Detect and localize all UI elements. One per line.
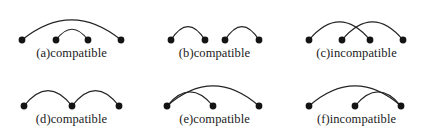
node-d-3 bbox=[116, 103, 123, 110]
panel-b: (b)compatible bbox=[143, 0, 286, 66]
panel-b-caption: (b)compatible bbox=[179, 47, 250, 60]
panel-f-diagram bbox=[285, 66, 427, 112]
node-c-3 bbox=[367, 37, 374, 44]
node-a-4 bbox=[118, 37, 125, 44]
panel-d: (d)compatible bbox=[0, 66, 143, 133]
node-f-3 bbox=[398, 103, 405, 110]
node-e-1 bbox=[164, 103, 171, 110]
node-c-2 bbox=[339, 37, 346, 44]
arc-d-1-2 bbox=[24, 91, 72, 106]
panel-c: (c)incompatible bbox=[286, 0, 427, 66]
panel-a: (a)compatible bbox=[0, 0, 143, 66]
arc-b-1-2 bbox=[171, 27, 205, 40]
node-a-3 bbox=[85, 37, 92, 44]
panel-e: (e)compatible bbox=[143, 66, 286, 133]
arc-a-2-3 bbox=[56, 29, 88, 40]
node-c-1 bbox=[306, 37, 313, 44]
node-f-2 bbox=[352, 103, 359, 110]
panel-a-caption: (a)compatible bbox=[36, 47, 107, 60]
node-b-4 bbox=[256, 37, 263, 44]
node-d-2 bbox=[69, 103, 76, 110]
arc-d-2-3 bbox=[72, 91, 119, 106]
node-b-3 bbox=[222, 37, 229, 44]
panel-f: (f)incompatible bbox=[286, 66, 427, 133]
node-b-1 bbox=[168, 37, 175, 44]
node-c-4 bbox=[400, 37, 407, 44]
panel-e-caption: (e)compatible bbox=[179, 113, 250, 126]
panel-a-diagram bbox=[0, 0, 143, 46]
arc-b-3-4 bbox=[225, 27, 259, 40]
panel-b-diagram bbox=[143, 0, 286, 46]
panel-d-caption: (d)compatible bbox=[36, 113, 107, 126]
panel-c-caption: (c)incompatible bbox=[316, 47, 397, 60]
arc-e-1-2 bbox=[167, 92, 213, 106]
panel-e-diagram bbox=[143, 66, 286, 112]
arc-f-2-3 bbox=[355, 92, 401, 106]
arc-diagram-figure: (a)compatible(b)compatible(c)incompatibl… bbox=[0, 0, 427, 133]
arc-a-1-4 bbox=[22, 20, 121, 40]
node-f-1 bbox=[306, 103, 313, 110]
node-b-2 bbox=[202, 37, 209, 44]
node-d-1 bbox=[21, 103, 28, 110]
panel-d-diagram bbox=[0, 66, 143, 112]
node-e-3 bbox=[256, 103, 263, 110]
panel-c-diagram bbox=[285, 0, 427, 46]
node-a-2 bbox=[53, 37, 60, 44]
panel-f-caption: (f)incompatible bbox=[317, 113, 396, 126]
node-e-2 bbox=[210, 103, 217, 110]
node-a-1 bbox=[19, 37, 26, 44]
